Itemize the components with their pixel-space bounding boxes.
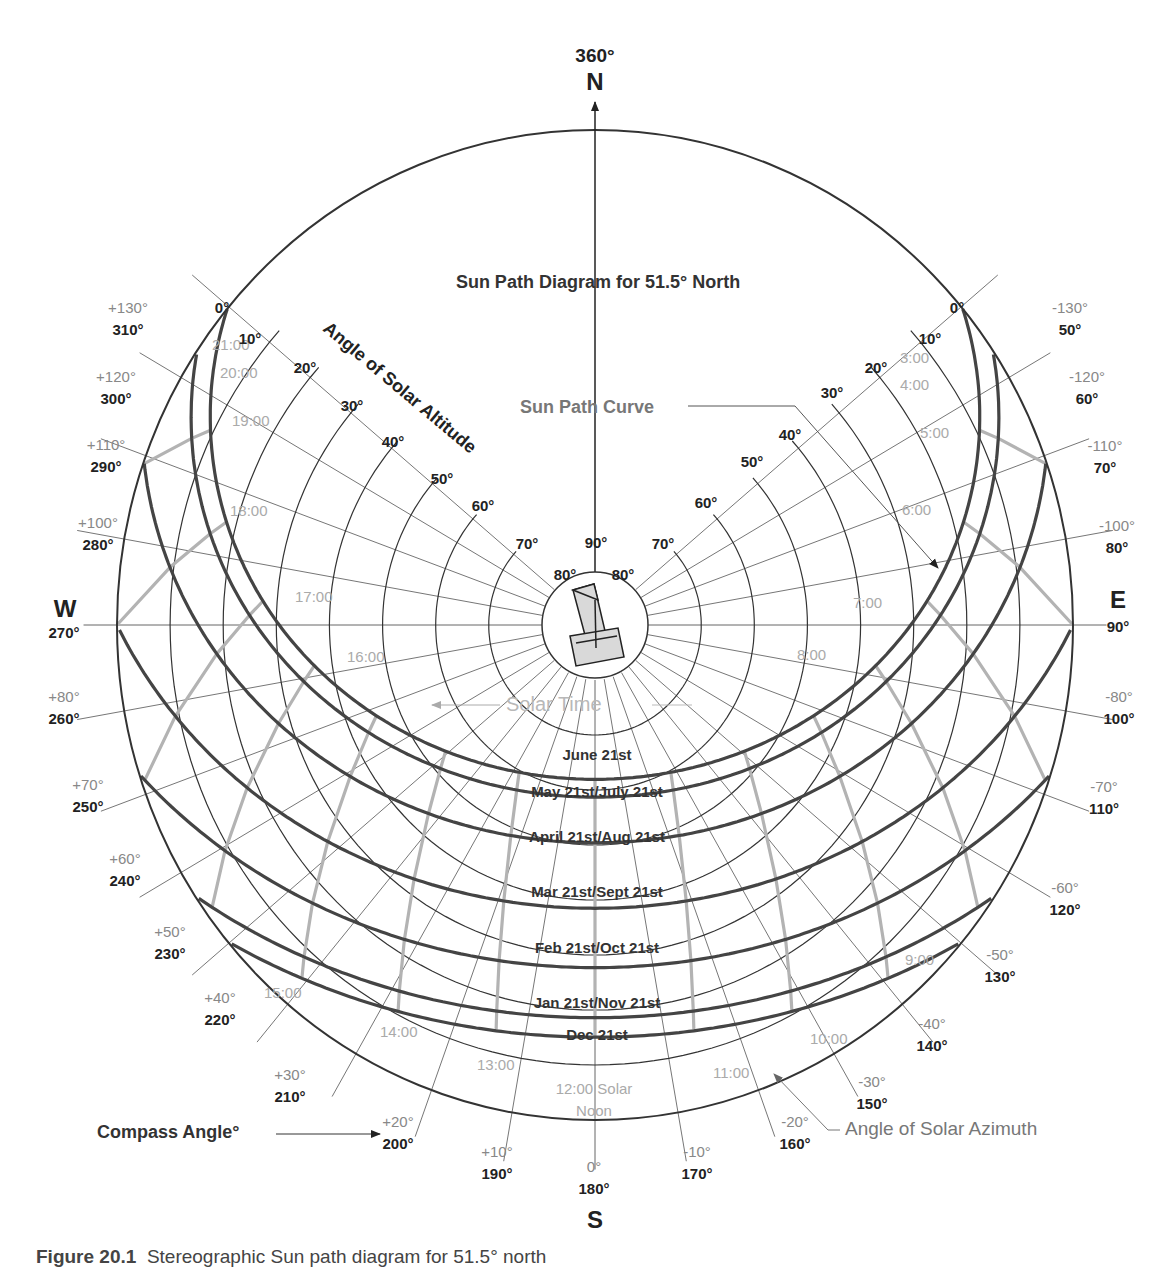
solar-azimuth-value: +110° xyxy=(87,436,126,453)
azimuth-line xyxy=(257,667,561,1042)
west-letter: W xyxy=(54,595,77,622)
sun-path-date-label: Jan 21st/Nov 21st xyxy=(534,994,661,1011)
solar-noon-label: 12:00 Solar xyxy=(556,1080,633,1097)
hour-label: 19:00 xyxy=(232,412,270,429)
solar-azimuth-value: 0° xyxy=(587,1158,601,1175)
compass-angle-value: 70° xyxy=(1094,459,1117,476)
altitude-label: 50° xyxy=(741,453,764,470)
compass-angle-value: 290° xyxy=(90,458,121,475)
compass-angle-value: 220° xyxy=(204,1011,235,1028)
compass-angle-value: 50° xyxy=(1059,321,1082,338)
azimuth-line xyxy=(192,275,554,590)
compass-angle-value: 210° xyxy=(274,1088,305,1105)
azimuth-line xyxy=(101,644,545,811)
sun-path-date-label: Mar 21st/Sept 21st xyxy=(531,883,663,900)
compass-angle-value: 180° xyxy=(578,1180,609,1197)
compass-angle-value: 240° xyxy=(109,872,140,889)
altitude-label: 10° xyxy=(919,330,942,347)
center-instrument xyxy=(542,572,648,678)
compass-angle-value: 230° xyxy=(154,945,185,962)
hour-label: 18:00 xyxy=(230,502,268,519)
hour-label: 10:00 xyxy=(810,1030,848,1047)
altitude-label: 20° xyxy=(294,359,317,376)
azimuth-line xyxy=(641,653,1050,898)
solar-azimuth-value: -30° xyxy=(858,1073,886,1090)
hour-line xyxy=(876,666,978,908)
solar-azimuth-value: -120° xyxy=(1069,368,1105,385)
compass-angle-value: 280° xyxy=(82,536,113,553)
hour-label: 17:00 xyxy=(295,588,333,605)
east-angle-label: 90° xyxy=(1107,618,1130,635)
solar-azimuth-value: -130° xyxy=(1052,299,1088,316)
compass-angle-value: 200° xyxy=(382,1135,413,1152)
sun-path-date-label: June 21st xyxy=(562,746,631,763)
altitude-label: 70° xyxy=(516,535,539,552)
sun-path-curve-label: Sun Path Curve xyxy=(520,397,654,417)
solar-azimuth-value: +50° xyxy=(154,923,185,940)
hour-label: 7:00 xyxy=(853,594,882,611)
solar-azimuth-value: -60° xyxy=(1051,879,1079,896)
solar-azimuth-value: +40° xyxy=(204,989,235,1006)
hour-label: 13:00 xyxy=(477,1056,515,1073)
sun-path-date-label: May 21st/July 21st xyxy=(531,783,663,800)
compass-angle-value: 130° xyxy=(984,968,1015,985)
compass-angle-value: 170° xyxy=(681,1165,712,1182)
solar-azimuth-value: -70° xyxy=(1090,778,1118,795)
north-angle-label: 360° xyxy=(575,45,614,66)
azimuth-line xyxy=(101,439,545,606)
compass-angle-value: 150° xyxy=(856,1095,887,1112)
compass-angle-value: 60° xyxy=(1076,390,1099,407)
caption-prefix: Figure 20.1 xyxy=(36,1246,136,1267)
sun-path-date-label: Dec 21st xyxy=(566,1026,628,1043)
hour-label: 3:00 xyxy=(900,349,929,366)
hour-label: 9:00 xyxy=(905,951,934,968)
solar-azimuth-value: +10° xyxy=(481,1143,512,1160)
compass-angle-value: 250° xyxy=(72,798,103,815)
hour-label: 5:00 xyxy=(920,424,949,441)
altitude-label: 0° xyxy=(215,299,229,316)
altitude-label: 0° xyxy=(950,299,964,316)
sun-path-curve-pointer xyxy=(688,406,938,568)
hour-label: 15:00 xyxy=(264,984,302,1001)
azimuth-line xyxy=(140,653,549,898)
altitude-label: 60° xyxy=(695,494,718,511)
altitude-label: 30° xyxy=(821,384,844,401)
compass-angle-value: 120° xyxy=(1049,901,1080,918)
altitude-label: 80° xyxy=(554,566,577,583)
azimuth-line xyxy=(140,353,549,598)
south-letter: S xyxy=(587,1206,603,1233)
solar-azimuth-value: +70° xyxy=(72,776,103,793)
solar-azimuth-value: +130° xyxy=(108,299,148,316)
solar-azimuth-value: +120° xyxy=(96,368,136,385)
azimuth-line xyxy=(641,353,1050,598)
compass-angle-value: 160° xyxy=(779,1135,810,1152)
hour-label: 8:00 xyxy=(797,646,826,663)
compass-angle-value: 190° xyxy=(481,1165,512,1182)
solar-azimuth-value: +100° xyxy=(78,514,118,531)
altitude-label: 40° xyxy=(382,433,405,450)
compass-angle-value: 260° xyxy=(48,710,79,727)
west-angle-label: 270° xyxy=(48,624,79,641)
altitude-label: 60° xyxy=(472,497,495,514)
azimuth-line xyxy=(629,667,933,1042)
sun-path-date-label: Feb 21st/Oct 21st xyxy=(535,939,659,956)
solar-time-label: Solar Time xyxy=(506,693,602,715)
altitude-label: 40° xyxy=(779,426,802,443)
hour-label: 16:00 xyxy=(347,648,385,665)
altitude-label: 30° xyxy=(341,397,364,414)
solar-azimuth-value: -50° xyxy=(986,946,1014,963)
hour-label: 20:00 xyxy=(220,364,258,381)
altitude-label: 80° xyxy=(612,566,635,583)
north-letter: N xyxy=(586,68,603,95)
solar-noon-label: Noon xyxy=(576,1102,612,1119)
hour-label: 14:00 xyxy=(380,1023,418,1040)
solar-azimuth-value: -20° xyxy=(781,1113,809,1130)
azimuth-line xyxy=(645,644,1089,811)
compass-angle-value: 110° xyxy=(1089,800,1119,817)
solar-azimuth-value: +60° xyxy=(109,850,140,867)
zenith-label: 90° xyxy=(585,534,608,551)
solar-azimuth-value: +30° xyxy=(274,1066,305,1083)
solar-azimuth-value: -100° xyxy=(1099,517,1135,534)
altitude-label: 10° xyxy=(239,330,262,347)
